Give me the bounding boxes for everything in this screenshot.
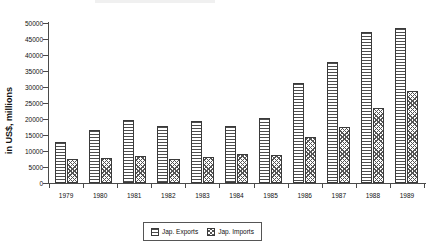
bar-jap-exports-1985 (259, 118, 270, 183)
bar-jap-imports-1979 (67, 159, 78, 183)
bar-jap-imports-1984 (237, 154, 248, 183)
y-axis-tick-label: 45000 (9, 36, 43, 43)
y-axis-tick (43, 151, 48, 152)
x-axis-tick (288, 184, 289, 188)
bar-jap-imports-1981 (135, 156, 146, 183)
x-axis-tick (49, 184, 50, 188)
bar-jap-imports-1986 (305, 137, 316, 183)
y-axis-tick-label: 30000 (9, 84, 43, 91)
y-axis-tick-label: 15000 (9, 132, 43, 139)
x-axis-line (48, 183, 426, 184)
bar-jap-exports-1988 (361, 32, 372, 183)
y-axis-tick-label: 10000 (9, 148, 43, 155)
y-axis-tick (43, 183, 48, 184)
x-axis-tick (185, 184, 186, 188)
bar-jap-exports-1987 (327, 62, 338, 183)
bar-jap-imports-1987 (339, 127, 350, 183)
y-axis-tick-label: 40000 (9, 52, 43, 59)
scan-artifact (95, 0, 215, 3)
x-axis-tick (254, 184, 255, 188)
y-axis-tick (43, 55, 48, 56)
y-axis-tick-label: 0 (9, 180, 43, 187)
bar-jap-exports-1986 (293, 83, 304, 183)
bar-jap-exports-1980 (89, 130, 100, 183)
bar-jap-exports-1979 (55, 142, 66, 183)
legend-label-exports: Jap. Exports (162, 228, 198, 235)
bar-jap-exports-1981 (123, 120, 134, 183)
bar-jap-imports-1989 (407, 91, 418, 183)
bar-jap-exports-1983 (191, 121, 202, 183)
y-axis-labels: 0500010000150002000025000300003500040000… (5, 0, 43, 249)
y-axis-tick-label: 20000 (9, 116, 43, 123)
x-axis-tick (117, 184, 118, 188)
bar-jap-exports-1982 (157, 126, 168, 183)
x-axis-tick (424, 184, 425, 188)
chart-legend: Jap. Exports Jap. Imports (143, 222, 262, 241)
bar-jap-imports-1983 (203, 157, 214, 183)
y-axis-tick (43, 39, 48, 40)
y-axis-tick-label: 50000 (9, 20, 43, 27)
y-axis-tick-label: 5000 (9, 164, 43, 171)
x-axis-tick (151, 184, 152, 188)
legend-label-imports: Jap. Imports (218, 228, 254, 235)
y-axis-tick (43, 135, 48, 136)
bar-jap-exports-1989 (395, 28, 406, 183)
y-axis-tick-label: 25000 (9, 100, 43, 107)
x-axis-tick (322, 184, 323, 188)
x-axis-tick (83, 184, 84, 188)
y-axis-tick (43, 103, 48, 104)
bar-jap-imports-1985 (271, 155, 282, 183)
y-axis-tick (43, 119, 48, 120)
x-axis-tick (390, 184, 391, 188)
legend-swatch-exports (151, 228, 159, 236)
x-axis-tick (219, 184, 220, 188)
y-axis-tick-label: 35000 (9, 68, 43, 75)
legend-item-imports: Jap. Imports (207, 228, 254, 236)
bar-jap-imports-1982 (169, 159, 180, 183)
bar-jap-exports-1984 (225, 126, 236, 183)
plot-area (49, 23, 424, 183)
y-axis-tick (43, 167, 48, 168)
x-axis-tick (356, 184, 357, 188)
bar-jap-imports-1988 (373, 108, 384, 183)
bar-chart: in US$, millions 05000100001500020000250… (0, 0, 430, 249)
x-axis-tick-label-1989: 1989 (387, 192, 427, 199)
y-axis-tick (43, 23, 48, 24)
y-axis-tick (43, 87, 48, 88)
bar-jap-imports-1980 (101, 158, 112, 183)
legend-item-exports: Jap. Exports (151, 228, 198, 236)
legend-swatch-imports (207, 228, 215, 236)
y-axis-tick (43, 71, 48, 72)
